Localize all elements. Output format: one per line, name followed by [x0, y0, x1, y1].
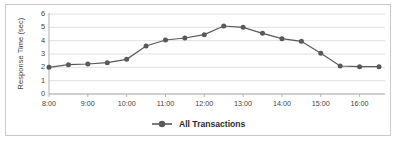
data-point-marker [124, 57, 129, 62]
data-point-marker [357, 64, 362, 69]
data-point-marker [299, 39, 304, 44]
series-line [49, 26, 379, 67]
data-point-marker [47, 65, 52, 70]
chart-container: Response Time (sec) 0123456 8:009:0010:0… [5, 4, 391, 136]
data-point-marker [260, 31, 265, 36]
data-point-marker [163, 38, 168, 43]
data-point-marker [182, 36, 187, 41]
data-point-marker [105, 60, 110, 65]
chart-inner: Response Time (sec) 0123456 8:009:0010:0… [6, 5, 390, 135]
chart-legend: All Transactions [6, 118, 390, 129]
data-point-marker [338, 64, 343, 69]
legend-label-all-transactions: All Transactions [179, 119, 245, 129]
data-point-marker [241, 25, 246, 30]
data-point-marker [377, 64, 382, 69]
data-point-marker [221, 24, 226, 29]
data-point-marker [66, 62, 71, 67]
data-point-marker [318, 51, 323, 56]
data-point-marker [85, 62, 90, 67]
data-point-marker [279, 36, 284, 41]
data-point-marker [144, 44, 149, 49]
legend-marker-icon [151, 119, 173, 129]
plot-area [6, 5, 392, 137]
data-point-marker [202, 32, 207, 37]
